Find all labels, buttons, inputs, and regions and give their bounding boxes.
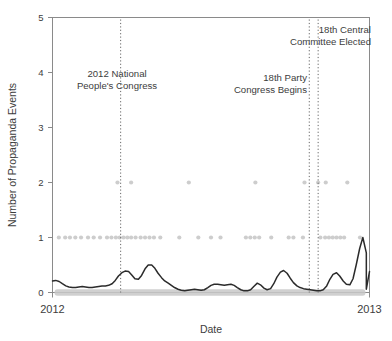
x-tick-label: 2013 [357, 303, 381, 315]
y-axis-title: Number of Propaganda Events [6, 83, 18, 227]
scatter-dot-count-1 [63, 235, 67, 239]
scatter-dot-count-1 [114, 235, 118, 239]
annotation-label-party-congress: 18th Party [263, 72, 307, 83]
scatter-dot-count-2 [316, 180, 320, 184]
scatter-dot-count-1 [98, 235, 102, 239]
scatter-dot-count-1 [331, 235, 335, 239]
scatter-dot-count-1 [358, 235, 362, 239]
scatter-dot-count-1 [327, 235, 331, 239]
x-axis-tick-labels: 20122013 [40, 303, 381, 315]
plot-frame [53, 18, 370, 293]
scatter-dot-count-1 [143, 235, 147, 239]
x-axis-title: Date [200, 323, 222, 335]
scatter-dot-count-1 [177, 235, 181, 239]
figure-container: 012345 20122013 2012 NationalPeople's Co… [0, 0, 392, 341]
y-axis-tick-labels: 012345 [38, 12, 43, 298]
scatter-dot-count-1 [269, 235, 273, 239]
scatter-dot-count-1 [129, 235, 133, 239]
scatter-dot-count-1 [287, 235, 291, 239]
scatter-dot-count-1 [152, 235, 156, 239]
y-tick-label: 5 [38, 12, 43, 23]
scatter-dot-count-1 [121, 235, 125, 239]
y-tick-label: 3 [38, 122, 43, 133]
scatter-dot-count-1 [338, 235, 342, 239]
scatter-dot-count-1 [79, 235, 83, 239]
scatter-dot-count-1 [257, 235, 261, 239]
x-tick-label: 2012 [40, 303, 64, 315]
scatter-dot-count-1 [253, 235, 257, 239]
scatter-dot-count-1 [92, 235, 96, 239]
scatter-dot-count-1 [139, 235, 143, 239]
y-tick-label: 2 [38, 177, 43, 188]
scatter-dot-count-1 [86, 235, 90, 239]
scatter-dot-count-2 [187, 180, 191, 184]
scatter-dot-count-1 [301, 235, 305, 239]
annotation-label-party-congress: Congress Begins [234, 84, 307, 95]
scatter-dot-count-1 [323, 235, 327, 239]
scatter-dot-count-1 [244, 235, 248, 239]
scatter-dot-count-1 [334, 235, 338, 239]
y-tick-label: 1 [38, 232, 43, 243]
scatter-dot-count-2 [253, 180, 257, 184]
annotation-label-central-committee: 18th Central [319, 24, 371, 35]
annotation-label-central-committee: Committee Elected [290, 36, 371, 47]
y-tick-label: 4 [38, 67, 43, 78]
scatter-dot-count-2 [115, 180, 119, 184]
scatter-dot-count-2 [324, 180, 328, 184]
scatter-dot-count-2 [345, 180, 349, 184]
scatter-dot-count-1 [109, 235, 113, 239]
scatter-dot-count-2 [302, 180, 306, 184]
scatter-dot-count-1 [248, 235, 252, 239]
scatter-dot-count-2 [129, 180, 133, 184]
scatter-dot-count-1 [57, 235, 61, 239]
scatter-dot-count-1 [158, 235, 162, 239]
scatter-dot-count-1 [218, 235, 222, 239]
scatter-dot-count-1 [342, 235, 346, 239]
annotation-label-npc: People's Congress [77, 80, 157, 91]
annotation-label-npc: 2012 National [87, 68, 146, 79]
y-tick-label: 0 [38, 287, 43, 298]
scatter-dot-count-1 [68, 235, 72, 239]
y-axis-ticks [48, 18, 53, 293]
scatter-dot-count-1 [196, 235, 200, 239]
scatter-dot-count-1 [133, 235, 137, 239]
scatter-dot-count-1 [318, 235, 322, 239]
scatter-dot-count-1 [73, 235, 77, 239]
propaganda-events-line-chart: 012345 20122013 2012 NationalPeople's Co… [0, 0, 392, 341]
scatter-dot-count-1 [291, 235, 295, 239]
scatter-dot-count-1 [118, 235, 122, 239]
scatter-dot-count-1 [147, 235, 151, 239]
scatter-dot-count-1 [209, 235, 213, 239]
scatter-dot-count-1 [125, 235, 129, 239]
scatter-dot-count-1 [105, 235, 109, 239]
